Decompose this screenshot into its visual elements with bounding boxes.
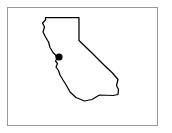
california-map-graphic <box>0 0 172 133</box>
figure-root: California state outline map with locati… <box>0 0 172 133</box>
california-state-outline <box>43 18 119 102</box>
city-location-marker[interactable] <box>55 53 62 60</box>
